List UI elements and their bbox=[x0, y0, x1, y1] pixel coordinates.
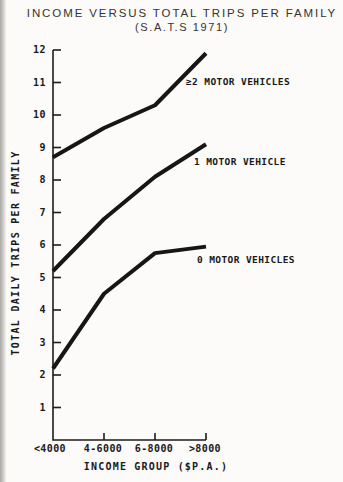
series-label-ge2-motor-vehicles: ≥2 MOTOR VEHICLES bbox=[186, 76, 290, 87]
y-tick-label: 6 bbox=[14, 239, 46, 250]
y-tick-label: 11 bbox=[14, 77, 46, 88]
y-tick-label: 8 bbox=[14, 174, 46, 185]
series-line-2 bbox=[53, 247, 206, 369]
chart-page: INCOME VERSUS TOTAL TRIPS PER FAMILY (S.… bbox=[0, 0, 343, 482]
y-tick-label: 2 bbox=[14, 369, 46, 380]
x-tick-label: 6-8000 bbox=[128, 443, 180, 454]
y-tick-label: 10 bbox=[14, 109, 46, 120]
series-label-1-motor-vehicle: 1 MOTOR VEHICLE bbox=[194, 156, 286, 167]
series-line-1 bbox=[53, 144, 206, 271]
chart-plot-area bbox=[0, 0, 343, 482]
y-tick-label: 9 bbox=[14, 142, 46, 153]
y-tick-label: 4 bbox=[14, 304, 46, 315]
x-tick-label: >8000 bbox=[179, 443, 231, 454]
series-line-0 bbox=[53, 53, 206, 157]
y-tick-label: 7 bbox=[14, 207, 46, 218]
y-tick-label: 12 bbox=[14, 44, 46, 55]
x-tick-label: <4000 bbox=[24, 443, 76, 454]
series-label-0-motor-vehicles: 0 MOTOR VEHICLES bbox=[197, 254, 295, 265]
y-tick-label: 1 bbox=[14, 402, 46, 413]
x-tick-label: 4-6000 bbox=[77, 443, 129, 454]
y-tick-label: 5 bbox=[14, 272, 46, 283]
y-tick-label: 3 bbox=[14, 337, 46, 348]
